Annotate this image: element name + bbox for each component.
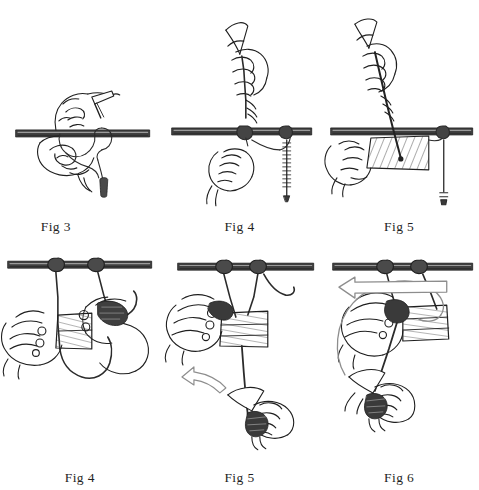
figure-caption-fig-5-top: Fig 5 — [384, 220, 414, 234]
figure-caption-fig-6-bottom: Fig 6 — [384, 471, 414, 485]
line-art-fig-4-bottom — [0, 245, 160, 457]
curved-arrow-up-left-icon — [182, 367, 226, 393]
line-art-fig-5-bottom — [160, 245, 320, 457]
figure-panel-fig-6-bottom-right: Fig 6 — [319, 245, 479, 490]
left-hand-supporting-plank — [1, 311, 61, 379]
line-art-fig-5-top — [319, 0, 479, 212]
figure-artwork-fig-4-top — [160, 0, 320, 212]
figure-artwork-fig-3 — [0, 0, 160, 212]
figure-panel-fig-5-bottom-center: Fig 5 — [160, 245, 320, 490]
figure-artwork-fig-6-bottom — [319, 245, 479, 457]
horizontal-pole-icon — [331, 128, 473, 135]
figure-caption-fig-5-bottom: Fig 5 — [224, 471, 254, 485]
figure-caption-fig-4-top: Fig 4 — [224, 220, 254, 234]
hatched-wooden-plank — [367, 136, 429, 170]
two-rope-legs — [224, 274, 294, 317]
lower-hand-with-marlinspike — [345, 369, 415, 431]
rope-right-side — [251, 126, 292, 196]
figure-panel-fig-5-top-right: Fig 5 — [319, 0, 479, 245]
lower-fingers-outline — [78, 175, 92, 192]
horizontal-pole-icon — [178, 263, 314, 270]
figure-panel-fig-3-top-left: Fig 3 — [0, 0, 160, 245]
whipped-rope-end — [100, 178, 108, 198]
knot-on-pole-center — [236, 126, 252, 146]
figure-artwork-fig-4-bottom — [0, 245, 160, 457]
upper-hand-with-marlinspike — [226, 23, 268, 123]
horizontal-pole-icon — [16, 130, 150, 137]
right-hand-with-marlinspike — [55, 91, 120, 130]
horizontal-pole-icon — [333, 263, 473, 270]
illustration-sheet: Fig 3 — [0, 0, 479, 490]
lower-hand-pulling-rope — [206, 149, 253, 206]
left-hand-outline — [38, 136, 94, 176]
figure-caption-fig-3: Fig 3 — [41, 220, 71, 234]
line-art-fig-4-top — [160, 0, 320, 212]
lower-hand-holding-plank — [325, 141, 371, 197]
figure-panel-fig-4-top-center: Fig 4 — [160, 0, 320, 245]
figure-artwork-fig-5-bottom — [160, 245, 320, 457]
figure-caption-fig-4-bottom: Fig 4 — [65, 471, 95, 485]
lower-hand-with-marlinspike — [228, 387, 294, 449]
hatched-wooden-plank — [403, 305, 449, 341]
figure-artwork-fig-5-top — [319, 0, 479, 212]
figure-grid: Fig 3 — [0, 0, 479, 490]
figure-panel-fig-4-bottom-left: Fig 4 — [0, 245, 160, 490]
rope-right-side — [429, 126, 450, 205]
line-art-fig-6-bottom — [319, 245, 479, 457]
line-art-fig-3 — [0, 0, 160, 212]
upper-hand-gripping-rope — [339, 293, 410, 369]
horizontal-pole-icon — [8, 261, 152, 268]
